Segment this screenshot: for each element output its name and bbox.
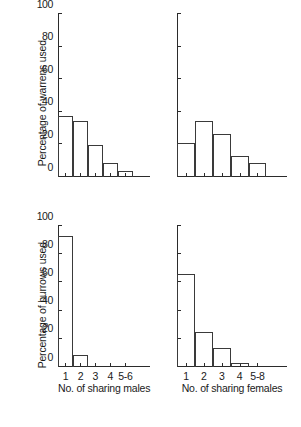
bar xyxy=(73,121,88,177)
y-tick-mark xyxy=(177,13,181,14)
figure-four-panel-bar-charts: Percentage of warrens used 020406080100 … xyxy=(0,0,301,427)
bar xyxy=(249,366,267,367)
y-tick-label: 40 xyxy=(42,295,53,306)
x-tick-label: 5-8 xyxy=(250,371,264,382)
y-tick-label: 0 xyxy=(48,351,53,362)
bar xyxy=(88,366,103,367)
y-tick-mark xyxy=(58,225,62,226)
bar xyxy=(88,145,103,177)
y-tick-mark xyxy=(58,78,62,79)
bar xyxy=(195,332,213,367)
bar xyxy=(103,163,118,177)
x-tick-label: 1 xyxy=(183,371,189,382)
y-tick-label: 80 xyxy=(42,31,53,42)
y-tick-label: 100 xyxy=(37,0,53,9)
y-tick-mark xyxy=(177,253,181,254)
x-tick-label: 2 xyxy=(78,371,84,382)
y-tick-label: 100 xyxy=(37,210,53,221)
panel-top-left: Percentage of warrens used 020406080100 xyxy=(30,10,150,195)
bar xyxy=(177,143,195,177)
x-axis-title-males: No. of sharing males xyxy=(58,383,150,394)
panel-bottom-right: 12345-8 No. of sharing females xyxy=(167,222,287,385)
y-tick-mark xyxy=(58,46,62,47)
plot-area-top-right xyxy=(177,14,287,177)
bar xyxy=(213,134,231,177)
plot-area-top-left: 020406080100 xyxy=(58,14,150,177)
x-tick-label: 4 xyxy=(237,371,243,382)
y-tick-label: 40 xyxy=(42,96,53,107)
bar xyxy=(177,274,195,367)
bar xyxy=(213,348,231,367)
x-tick-label: 2 xyxy=(201,371,207,382)
x-tick-label: 1 xyxy=(63,371,69,382)
y-tick-mark xyxy=(177,225,181,226)
panel-bottom-left: Percentage of burrows used 020406080100 … xyxy=(30,222,150,385)
x-axis-title-females: No. of sharing females xyxy=(177,383,287,394)
panel-top-right xyxy=(167,10,287,195)
y-tick-mark xyxy=(58,13,62,14)
y-tick-mark xyxy=(58,111,62,112)
y-tick-label: 60 xyxy=(42,63,53,74)
plot-area-bottom-right: 12345-8 No. of sharing females xyxy=(177,226,287,367)
bar xyxy=(58,116,73,177)
x-tick-label: 5-6 xyxy=(118,371,132,382)
bar xyxy=(249,163,267,177)
bar xyxy=(58,236,73,367)
bar xyxy=(118,171,133,177)
y-tick-label: 0 xyxy=(48,161,53,172)
y-tick-mark xyxy=(177,78,181,79)
x-tick-label: 3 xyxy=(93,371,99,382)
x-tick-label: 4 xyxy=(108,371,114,382)
y-tick-label: 20 xyxy=(42,129,53,140)
plot-area-bottom-left: 020406080100 12345-6 No. of sharing male… xyxy=(58,226,150,367)
y-tick-mark xyxy=(177,111,181,112)
bar xyxy=(103,366,118,367)
bar xyxy=(195,121,213,177)
bar xyxy=(73,355,88,367)
y-tick-mark xyxy=(177,46,181,47)
y-tick-label: 20 xyxy=(42,323,53,334)
bar xyxy=(231,363,249,367)
bar xyxy=(118,366,133,367)
x-tick-label: 3 xyxy=(219,371,225,382)
y-tick-label: 60 xyxy=(42,267,53,278)
y-tick-label: 80 xyxy=(42,238,53,249)
bar xyxy=(231,156,249,177)
